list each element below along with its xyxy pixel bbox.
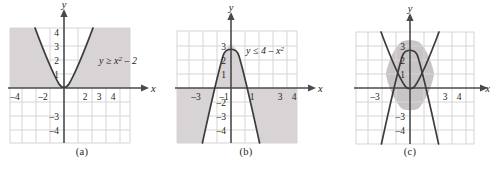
svg-text:–3: –3 (216, 112, 227, 122)
svg-text:3: 3 (221, 42, 226, 52)
svg-text:4: 4 (111, 92, 116, 102)
svg-text:–3: –3 (369, 92, 380, 102)
svg-text:3: 3 (443, 92, 448, 102)
panel-c-svg: –3 3 4 3 2 1 –3 –4 x y (328, 0, 492, 145)
panel-c-plot: –3 3 4 3 2 1 –3 –4 x y (328, 0, 492, 145)
svg-text:–3: –3 (395, 112, 406, 122)
svg-text:2: 2 (54, 56, 59, 66)
svg-text:3: 3 (97, 92, 102, 102)
svg-text:–4: –4 (216, 126, 227, 136)
panel-a-plot: –4 –2 2 3 4 4 3 2 1 –3 –4 x y y ≥ x2 – (0, 0, 164, 145)
panel-c-y-axis-label: y (407, 3, 413, 14)
svg-text:–4: –4 (395, 126, 406, 136)
svg-text:1: 1 (221, 70, 226, 80)
svg-text:1: 1 (250, 92, 255, 102)
panel-a-annotation-text: y ≥ x (98, 55, 119, 66)
panel-b-y-axis-label: y (228, 2, 234, 13)
panel-b-caption: (b) (164, 146, 328, 157)
panel-c-caption: (c) (328, 146, 492, 157)
panel-a-x-axis-label: x (150, 83, 156, 94)
panel-b-plot: –3 –1 1 3 4 3 2 1 –2 –3 –4 x y y ≤ 4 – x… (164, 0, 328, 145)
svg-text:1: 1 (400, 70, 405, 80)
svg-text:4: 4 (54, 28, 59, 38)
panel-c-x-axis-label: x (484, 83, 490, 94)
panel-a-svg: –4 –2 2 3 4 4 3 2 1 –3 –4 x y y ≥ x2 – (0, 0, 164, 145)
svg-text:–2: –2 (216, 98, 227, 108)
svg-text:–3: –3 (49, 112, 60, 122)
svg-text:2: 2 (221, 56, 226, 66)
panel-b-inequality-annotation: y ≤ 4 – x2 (245, 45, 284, 57)
svg-text:3: 3 (400, 42, 405, 52)
svg-text:4: 4 (457, 92, 462, 102)
three-panel-parabola-figure: –4 –2 2 3 4 4 3 2 1 –3 –4 x y y ≥ x2 – (0, 0, 492, 171)
panel-a: –4 –2 2 3 4 4 3 2 1 –3 –4 x y y ≥ x2 – (0, 0, 164, 171)
svg-text:3: 3 (54, 42, 59, 52)
panel-c: –3 3 4 3 2 1 –3 –4 x y (c) (328, 0, 492, 171)
panel-b-annotation-text: y ≤ 4 – x (245, 45, 281, 56)
panel-a-y-axis-label: y (61, 0, 67, 10)
panel-b-svg: –3 –1 1 3 4 3 2 1 –2 –3 –4 x y y ≤ 4 – x… (164, 0, 328, 145)
svg-text:–4: –4 (9, 92, 20, 102)
svg-text:4: 4 (292, 92, 297, 102)
panel-a-shaded-region (10, 28, 130, 143)
panel-b-x-axis-label: x (317, 83, 323, 94)
svg-text:3: 3 (278, 92, 283, 102)
svg-text:1: 1 (54, 70, 59, 80)
panel-a-inequality-annotation: y ≥ x2 – 2 (98, 55, 137, 67)
svg-text:–3: –3 (190, 92, 201, 102)
svg-text:2: 2 (400, 56, 405, 66)
panel-a-caption: (a) (0, 146, 164, 157)
svg-text:–2: –2 (37, 92, 48, 102)
svg-text:2: 2 (83, 92, 88, 102)
panel-b: –3 –1 1 3 4 3 2 1 –2 –3 –4 x y y ≤ 4 – x… (164, 0, 328, 171)
svg-text:–4: –4 (49, 126, 60, 136)
